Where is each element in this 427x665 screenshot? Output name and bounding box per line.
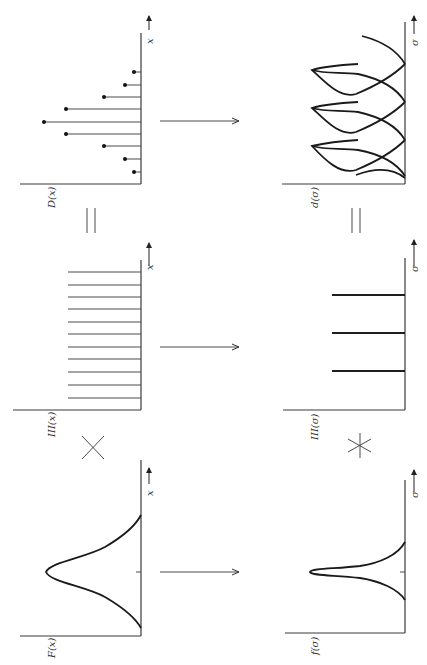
sample-stems bbox=[42, 70, 141, 174]
panel-label-III-of-x: III(x) bbox=[46, 412, 57, 438]
axis-label-x: x bbox=[144, 264, 155, 270]
axis-label-sigma: σ bbox=[409, 264, 420, 272]
equals-operator-bottom bbox=[352, 208, 360, 233]
periodic-peaks bbox=[312, 36, 405, 178]
panel-label-f-of-sigma: f(σ) bbox=[309, 637, 320, 656]
panel-D-of-x: x D(x) bbox=[20, 16, 155, 209]
panel-d-of-sigma: σ d(σ) bbox=[282, 16, 420, 208]
multiply-operator-icon bbox=[82, 436, 104, 459]
panel-label-d-of-sigma: d(σ) bbox=[309, 187, 320, 208]
fourier-transform-arrows bbox=[160, 121, 239, 572]
panel-F-of-x: x F(x) bbox=[20, 460, 155, 659]
equals-operator-top bbox=[87, 208, 95, 233]
panel-label-III-of-sigma: III(σ) bbox=[309, 413, 320, 441]
axis-label-sigma: σ bbox=[409, 38, 420, 46]
convolution-operator-icon bbox=[348, 433, 371, 458]
comb-teeth bbox=[332, 295, 405, 371]
panel-label-D-of-x: D(x) bbox=[46, 186, 57, 209]
gaussian-curve bbox=[46, 515, 141, 628]
axis-label-x: x bbox=[144, 38, 155, 44]
comb-teeth bbox=[68, 272, 141, 398]
axis-label-sigma: σ bbox=[409, 490, 420, 498]
panel-III-of-x: x III(x) bbox=[13, 243, 155, 438]
fourier-sampling-diagram: x D(x) x bbox=[0, 0, 427, 665]
panel-f-of-sigma: σ f(σ) bbox=[285, 470, 420, 656]
narrow-peak-curve bbox=[310, 542, 405, 600]
panel-III-of-sigma: σ III(σ) bbox=[283, 240, 420, 441]
axis-label-x: x bbox=[144, 490, 155, 496]
panel-label-F-of-x: F(x) bbox=[46, 638, 57, 659]
